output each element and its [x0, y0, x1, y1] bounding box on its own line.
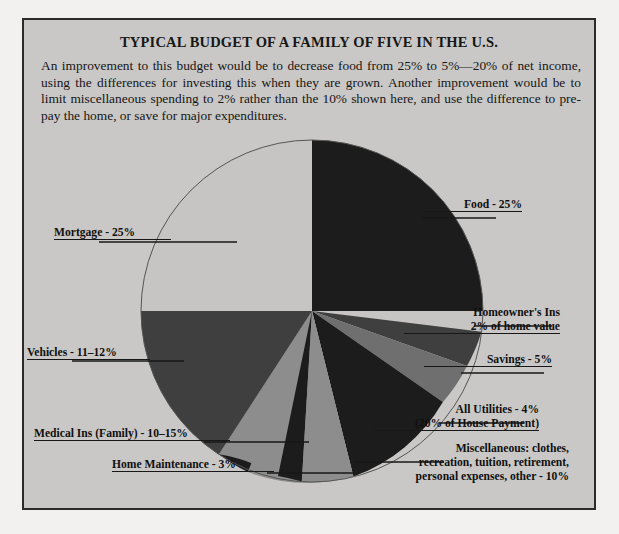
label-home-maintenance[interactable]: Home Maintenance - 3%: [112, 458, 274, 472]
pie-slice-food[interactable]: [312, 140, 483, 311]
label-miscellaneous-line3[interactable]: personal expenses, other - 10%: [324, 470, 569, 483]
label-miscellaneous-line2[interactable]: recreation, tuition, retirement,: [324, 456, 569, 469]
label-all-utilities-line2[interactable]: (20% of House Payment): [374, 417, 539, 431]
label-homeowners-ins-line1[interactable]: Homeowner's Ins: [404, 306, 560, 319]
label-homeowners-ins-line2[interactable]: 2% of home value: [404, 320, 560, 334]
label-food[interactable]: Food - 25%: [424, 198, 522, 212]
label-medical-ins[interactable]: Medical Ins (Family) - 10–15%: [34, 427, 230, 441]
chart-panel: TYPICAL BUDGET OF A FAMILY OF FIVE IN TH…: [22, 18, 596, 510]
label-vehicles[interactable]: Vehicles - 11–12%: [27, 346, 150, 360]
label-all-utilities-line1[interactable]: All Utilities - 4%: [374, 403, 539, 416]
label-mortgage[interactable]: Mortgage - 25%: [54, 226, 171, 240]
label-miscellaneous-line1[interactable]: Miscellaneous: clothes,: [324, 442, 569, 455]
label-savings[interactable]: Savings - 5%: [424, 353, 552, 367]
